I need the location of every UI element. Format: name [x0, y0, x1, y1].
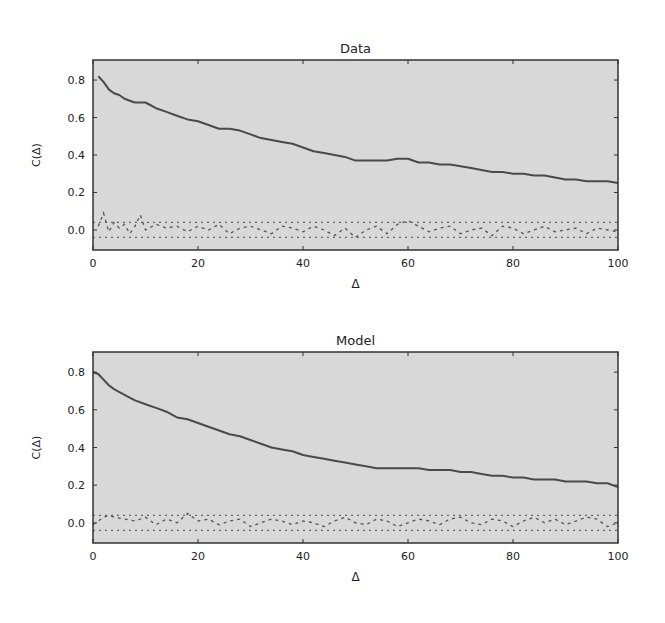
- y-tick-label: 0.2: [68, 186, 86, 199]
- plot-area: [93, 60, 618, 250]
- x-tick-label: 80: [506, 550, 520, 563]
- y-tick-label: 0.8: [68, 366, 86, 379]
- x-tick-label: 60: [401, 257, 415, 270]
- y-tick-label: 0.2: [68, 479, 86, 492]
- x-tick-label: 60: [401, 550, 415, 563]
- y-tick-label: 0.0: [68, 517, 86, 530]
- plot-area: [93, 352, 618, 543]
- x-tick-label: 40: [296, 257, 310, 270]
- x-tick-label: 20: [191, 550, 205, 563]
- x-tick-label: 20: [191, 257, 205, 270]
- x-tick-label: 40: [296, 550, 310, 563]
- y-tick-label: 0.4: [68, 442, 86, 455]
- x-tick-label: 0: [90, 257, 97, 270]
- figure: 020406080100 0.00.20.40.60.8 Data Δ C(Δ)…: [0, 0, 665, 623]
- y-axis-label: C(Δ): [30, 436, 43, 460]
- y-tick-label: 0.0: [68, 224, 86, 237]
- x-tick-label: 100: [608, 550, 629, 563]
- chart-title: Model: [336, 333, 375, 348]
- chart-title: Data: [340, 41, 371, 56]
- y-tick-label: 0.4: [68, 149, 86, 162]
- x-axis-label: Δ: [351, 570, 360, 584]
- x-tick-label: 80: [506, 257, 520, 270]
- y-tick-label: 0.8: [68, 74, 86, 87]
- x-tick-label: 0: [90, 550, 97, 563]
- x-axis-label: Δ: [351, 277, 360, 291]
- x-tick-label: 100: [608, 257, 629, 270]
- y-axis-label: C(Δ): [30, 143, 43, 167]
- y-tick-label: 0.6: [68, 404, 86, 417]
- y-tick-label: 0.6: [68, 112, 86, 125]
